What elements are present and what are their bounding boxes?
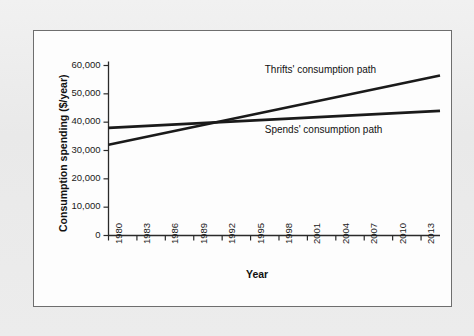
series-annotation-label: Spends' consumption path	[265, 124, 383, 135]
x-axis-tick-label: 2010	[397, 222, 408, 243]
x-axis-tick-label: 2007	[368, 222, 379, 243]
y-axis-tick-label: 20,000	[71, 172, 100, 183]
y-axis-tick-label: 60,000	[71, 59, 100, 70]
y-axis-title: Consumption spending ($/year)	[57, 74, 69, 232]
y-axis-tick-label: 10,000	[71, 200, 100, 211]
x-axis-tick-label: 1980	[113, 222, 124, 243]
x-axis-tick-label: 1998	[283, 222, 294, 243]
chart-svg	[0, 0, 474, 336]
y-axis-tick-label: 50,000	[71, 87, 100, 98]
y-axis-tick-label: 30,000	[71, 144, 100, 155]
x-axis-title: Year	[246, 268, 268, 280]
x-axis-tick-label: 1986	[169, 222, 180, 243]
x-axis-tick-label: 2001	[311, 222, 322, 243]
x-axis-tick-label: 1992	[226, 222, 237, 243]
chart-axes	[104, 62, 441, 241]
series-annotation-label: Thrifts' consumption path	[265, 64, 376, 75]
x-axis-tick-label: 1983	[141, 222, 152, 243]
line-chart: 010,00020,00030,00040,00050,00060,000198…	[0, 0, 474, 336]
x-axis-tick-label: 2013	[425, 222, 436, 243]
x-axis-tick-label: 1995	[255, 222, 266, 243]
y-axis-tick-label: 0	[95, 229, 100, 240]
x-axis-tick-label: 1989	[198, 222, 209, 243]
x-axis-tick-label: 2004	[340, 222, 351, 243]
y-axis-tick-label: 40,000	[71, 115, 100, 126]
